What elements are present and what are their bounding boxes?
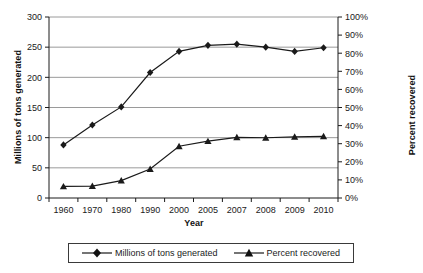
y-left-tick-label: 250 — [27, 42, 42, 52]
data-point-marker — [118, 177, 125, 183]
y-left-tick-marks — [45, 17, 49, 198]
x-axis-tick-label: 2008 — [256, 205, 276, 215]
y-left-tick-label: 0 — [37, 193, 42, 203]
data-point-marker — [291, 48, 297, 55]
series-line — [63, 136, 323, 186]
data-point-marker — [320, 44, 326, 51]
data-point-marker — [176, 48, 182, 55]
legend-item-percent-recovered: Percent recovered — [234, 247, 341, 259]
y-left-tick-labels: 050100150200250300 — [27, 12, 42, 203]
legend-label-tons-generated: Millions of tons generated — [115, 248, 218, 258]
gridlines-group — [49, 17, 338, 168]
y-right-tick-label: 90% — [345, 30, 363, 40]
x-axis-tick-label: 2000 — [169, 205, 189, 215]
y-right-tick-label: 10% — [345, 175, 363, 185]
y-right-tick-label: 30% — [345, 139, 363, 149]
chart-plot-area: 050100150200250300 0%10%20%30%40%50%60%7… — [0, 0, 423, 273]
x-axis-tick-label: 1990 — [140, 205, 160, 215]
y-right-tick-label: 70% — [345, 67, 363, 77]
x-axis-tick-label: 2007 — [227, 205, 247, 215]
triangle-marker-icon — [234, 247, 264, 259]
y-left-tick-label: 300 — [27, 12, 42, 22]
y-right-tick-label: 60% — [345, 85, 363, 95]
y-right-tick-label: 100% — [345, 12, 368, 22]
x-axis-tick-label: 2009 — [285, 205, 305, 215]
chart-figure: Millions of tons generated Percent recov… — [0, 0, 423, 273]
y-left-tick-label: 150 — [27, 103, 42, 113]
y-right-tick-labels: 0%10%20%30%40%50%60%70%80%90%100% — [345, 12, 368, 203]
x-axis-tick-label: 1970 — [82, 205, 102, 215]
legend-label-percent-recovered: Percent recovered — [267, 248, 341, 258]
x-axis-tick-label: 2010 — [314, 205, 334, 215]
series-line — [63, 44, 323, 145]
x-axis-tick-label: 1980 — [111, 205, 131, 215]
legend-item-tons-generated: Millions of tons generated — [82, 247, 218, 259]
y-right-tick-label: 40% — [345, 121, 363, 131]
y-left-tick-label: 200 — [27, 73, 42, 83]
y-left-tick-label: 100 — [27, 133, 42, 143]
data-point-marker — [60, 141, 66, 148]
x-axis-tick-label: 2005 — [198, 205, 218, 215]
diamond-marker-icon — [82, 247, 112, 259]
y-right-tick-label: 80% — [345, 49, 363, 59]
y-right-tick-label: 0% — [345, 193, 358, 203]
y-right-tick-label: 50% — [345, 103, 363, 113]
y-right-tick-marks — [338, 17, 342, 198]
data-point-marker — [205, 42, 211, 49]
x-axis-tick-marks — [49, 198, 338, 202]
data-series-group — [60, 41, 327, 190]
y-right-tick-label: 20% — [345, 157, 363, 167]
data-point-marker — [89, 121, 95, 128]
data-point-marker — [263, 44, 269, 51]
y-left-tick-label: 50 — [32, 163, 42, 173]
chart-legend: Millions of tons generated Percent recov… — [68, 243, 354, 263]
x-axis-tick-label: 1960 — [53, 205, 73, 215]
x-axis-tick-labels: 1960197019801990200020052007200820092010 — [53, 205, 333, 215]
